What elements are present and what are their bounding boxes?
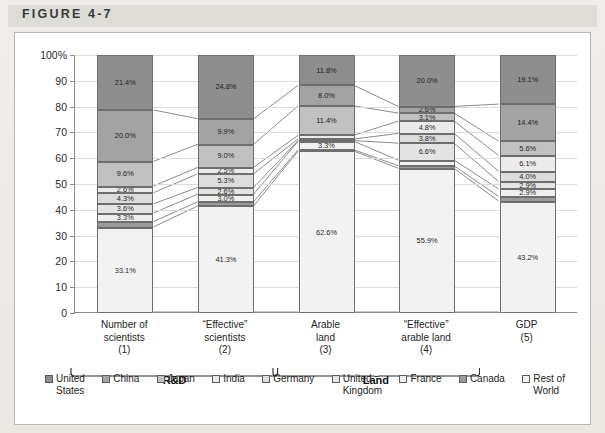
stacked-bar[interactable]: 24.8%9.9%9.0%2.5%5.3%2.6%3.0%41.3% — [198, 55, 254, 312]
legend-item[interactable]: Canada — [459, 373, 505, 385]
bar-segment[interactable]: 43.2% — [501, 202, 555, 313]
bar-segment[interactable]: 3.3% — [98, 214, 152, 223]
bar-segment-label: 2.6% — [419, 107, 436, 114]
legend-item[interactable]: United States — [45, 373, 85, 396]
bar-segment[interactable]: 4.0% — [501, 172, 555, 182]
y-axis-tick — [70, 261, 75, 262]
bar-segment[interactable]: 55.9% — [400, 169, 454, 313]
bar-segment[interactable]: 2.6% — [98, 187, 152, 194]
bar-segment-label: 19.1% — [517, 76, 538, 83]
legend-swatch-icon — [102, 375, 110, 383]
bar-segment-label: 3.0% — [217, 195, 234, 202]
bar-segment[interactable]: 5.6% — [501, 141, 555, 155]
bar-segment[interactable]: 3.0% — [199, 195, 253, 203]
bar-segment-label: 6.1% — [519, 160, 536, 167]
bar-segment[interactable]: 9.0% — [199, 145, 253, 168]
bar-segment[interactable]: 2.6% — [400, 107, 454, 114]
bar-segment-label: 14.4% — [517, 119, 538, 126]
figure-container: FIGURE 4-7 100%908070605040302010021.4%2… — [0, 0, 605, 433]
stacked-bar[interactable]: 21.4%20.0%9.6%2.6%4.3%3.6%3.3%33.1% — [97, 55, 153, 312]
bar-segment[interactable]: 3.1% — [400, 113, 454, 121]
bar-segment[interactable]: 14.4% — [501, 104, 555, 141]
stacked-bar[interactable]: 11.8%8.0%11.4%3.3%62.6% — [299, 55, 355, 312]
bar-segment-label: 2.6% — [117, 187, 134, 194]
legend-swatch-icon — [459, 375, 467, 383]
legend-swatch-icon — [332, 375, 340, 383]
y-axis-tick — [70, 236, 75, 237]
legend-item[interactable]: India — [212, 373, 245, 385]
bar-segment-label: 9.6% — [117, 170, 134, 177]
y-axis-tick-label: 90 — [55, 75, 67, 87]
bar-segment[interactable]: 19.1% — [501, 55, 555, 104]
bar-segment[interactable]: 9.6% — [98, 162, 152, 187]
x-axis-label: “Effective” scientists (2) — [175, 319, 275, 357]
y-axis-tick-label: 20 — [55, 255, 67, 267]
y-axis-tick-label: 100% — [40, 49, 67, 61]
bar-segment-label: 3.8% — [419, 135, 436, 142]
y-axis-tick-label: 10 — [55, 281, 67, 293]
stacked-bar[interactable]: 19.1%14.4%5.6%6.1%4.0%2.9%2.9%43.2% — [500, 55, 556, 312]
bar-segment-label: 2.9% — [519, 189, 536, 196]
bar-segment-label: 8.0% — [318, 92, 335, 99]
bar-segment[interactable]: 20.0% — [98, 110, 152, 162]
legend-item[interactable]: France — [399, 373, 441, 385]
bar-segment[interactable]: 2.9% — [501, 182, 555, 189]
bar-segment[interactable]: 6.1% — [501, 156, 555, 172]
x-axis-label: Number of scientists (1) — [74, 319, 174, 357]
bar-segment[interactable]: 9.9% — [199, 119, 253, 145]
stacked-bar[interactable]: 20.0%2.6%3.1%4.8%3.8%6.6%55.9% — [399, 55, 455, 312]
y-axis-tick — [70, 132, 75, 133]
bar-segment[interactable]: 33.1% — [98, 228, 152, 313]
bar-segment-label: 3.1% — [419, 114, 436, 121]
y-axis-tick-label: 80 — [55, 101, 67, 113]
bar-segment[interactable]: 41.3% — [199, 206, 253, 313]
bar-segment-label: 4.0% — [519, 173, 536, 180]
bar-segment[interactable]: 3.6% — [98, 204, 152, 213]
y-axis-tick — [70, 158, 75, 159]
bar-segment[interactable]: 5.3% — [199, 174, 253, 188]
bar-segment[interactable]: 11.8% — [300, 55, 354, 85]
bar-segment-label: 4.8% — [419, 124, 436, 131]
bar-segment-label: 2.6% — [217, 188, 234, 195]
bar-segment[interactable]: 2.9% — [501, 189, 555, 196]
bar-segment[interactable]: 21.4% — [98, 55, 152, 110]
legend-item[interactable]: China — [102, 373, 139, 385]
legend-swatch-icon — [45, 375, 53, 383]
legend-swatch-icon — [212, 375, 220, 383]
bar-segment[interactable]: 62.6% — [300, 151, 354, 313]
legend-item[interactable]: Rest of World — [522, 373, 565, 396]
bar-segment[interactable]: 6.6% — [400, 143, 454, 160]
y-axis-tick — [70, 184, 75, 185]
legend-item[interactable]: United Kingdom — [332, 373, 382, 396]
bar-segment-label: 11.4% — [316, 117, 336, 124]
bar-segment[interactable]: 2.6% — [199, 188, 253, 195]
bar-segment-label: 21.4% — [115, 79, 136, 86]
bar-segment-label: 43.2% — [517, 254, 538, 261]
legend-label: Rest of World — [533, 373, 565, 396]
bar-segment-label: 6.6% — [419, 148, 436, 155]
legend-item[interactable]: Japan — [157, 373, 195, 385]
y-axis-tick-label: 60 — [55, 152, 67, 164]
legend-label: United Kingdom — [343, 373, 382, 396]
bar-segment[interactable]: 3.8% — [400, 134, 454, 144]
bar-segment[interactable]: 4.8% — [400, 121, 454, 133]
y-axis-tick — [70, 287, 75, 288]
x-axis-label: Arable land (3) — [276, 319, 376, 357]
legend-item[interactable]: Germany — [262, 373, 314, 385]
bar-segment[interactable]: 3.3% — [300, 142, 354, 151]
legend-label: India — [223, 373, 245, 385]
y-axis-tick-label: 40 — [55, 204, 67, 216]
bar-segment-label: 3.3% — [318, 142, 335, 149]
plot-area: 100%908070605040302010021.4%20.0%9.6%2.6… — [74, 55, 577, 313]
bar-segment[interactable]: 20.0% — [400, 55, 454, 107]
y-axis-tick-label: 30 — [55, 230, 67, 242]
bar-segment[interactable]: 24.8% — [199, 55, 253, 119]
group-bracket — [272, 363, 481, 372]
y-axis-tick — [70, 313, 75, 314]
bar-segment[interactable]: 8.0% — [300, 85, 354, 106]
legend-label: Canada — [470, 373, 505, 385]
bar-segment[interactable]: 11.4% — [300, 106, 354, 135]
y-axis-tick-label: 0 — [61, 307, 67, 319]
bar-segment-label: 5.6% — [519, 145, 536, 152]
bar-segment[interactable]: 4.3% — [98, 193, 152, 204]
